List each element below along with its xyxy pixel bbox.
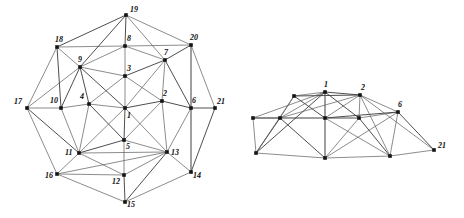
vertex-label-1: 1 — [324, 81, 328, 89]
graph-vertex — [396, 110, 400, 114]
vertex-label-21: 21 — [438, 142, 446, 150]
graph-vertex — [358, 93, 362, 97]
graph-vertex — [163, 58, 167, 62]
vertex-label-20: 20 — [190, 34, 198, 42]
graph-edge — [167, 108, 191, 152]
graph-vertex — [55, 172, 59, 176]
graph-edge — [80, 67, 125, 108]
graph-edge — [162, 101, 191, 108]
graph-edge — [325, 112, 398, 158]
graph-edge — [125, 60, 165, 76]
graph-vertex — [160, 99, 164, 103]
graph-vertex — [251, 116, 255, 120]
graph-vertex — [59, 106, 63, 110]
graph-vertex — [323, 116, 327, 120]
graph-edge — [325, 118, 359, 158]
graph-vertex — [25, 106, 29, 110]
graph-vertex — [123, 74, 127, 78]
graph-edge — [61, 104, 89, 108]
graph-edge — [27, 108, 57, 174]
graph-edge — [125, 172, 191, 202]
graph-vertex — [357, 116, 361, 120]
graph-vertex — [77, 151, 81, 155]
graph-edge — [79, 153, 124, 175]
graph-edge — [57, 15, 126, 47]
graph-edge — [253, 118, 256, 153]
graph-edge — [57, 174, 124, 175]
vertex-label-17: 17 — [14, 98, 22, 106]
graph-vertex — [278, 116, 282, 120]
graph-edge — [57, 47, 80, 67]
graph-vertex — [432, 148, 436, 152]
vertex-label-21: 21 — [217, 98, 225, 106]
graph-vertex — [388, 154, 392, 158]
vertex-label-1: 1 — [127, 112, 131, 120]
graph-edge — [124, 175, 125, 202]
graph-svg — [0, 0, 464, 218]
graph-edge — [325, 92, 360, 95]
graph-edge — [57, 46, 125, 47]
graph-edge — [89, 104, 124, 140]
graph-edge — [27, 108, 79, 153]
graph-edge — [280, 118, 325, 158]
vertex-label-5: 5 — [126, 143, 130, 151]
graph-edge — [124, 140, 167, 152]
graph-vertex — [78, 65, 82, 69]
graph-edge — [162, 101, 167, 152]
graph-edge — [80, 46, 125, 67]
vertex-label-9: 9 — [78, 56, 82, 64]
graph-vertex — [87, 102, 91, 106]
right-graph-edges — [253, 92, 434, 158]
vertex-label-12: 12 — [112, 178, 120, 186]
graph-vertex — [323, 90, 327, 94]
vertex-label-11: 11 — [65, 149, 73, 157]
graph-vertex — [123, 44, 127, 48]
graph-edge — [398, 112, 434, 150]
graph-vertex — [292, 94, 296, 98]
graph-edge — [125, 45, 191, 46]
vertex-label-7: 7 — [164, 49, 168, 57]
vertex-label-8: 8 — [127, 35, 131, 43]
graph-edge — [325, 118, 390, 156]
vertex-label-14: 14 — [193, 172, 201, 180]
graph-edge — [294, 95, 360, 96]
vertex-label-10: 10 — [50, 97, 58, 105]
graph-edge — [253, 92, 325, 118]
graph-edge — [79, 104, 89, 153]
graph-edge — [124, 108, 125, 140]
graph-vertex — [124, 13, 128, 17]
graph-vertex — [165, 150, 169, 154]
graph-edge — [325, 156, 390, 158]
graph-vertex — [254, 151, 258, 155]
graph-edge — [125, 76, 162, 101]
graph-edge — [360, 95, 434, 150]
vertex-label-3: 3 — [127, 65, 131, 73]
graph-edge — [80, 15, 126, 67]
vertex-label-16: 16 — [45, 172, 53, 180]
graph-edge — [390, 150, 434, 156]
vertex-label-4: 4 — [80, 93, 84, 101]
vertex-label-6: 6 — [398, 101, 402, 109]
graph-edge — [61, 108, 79, 153]
vertex-label-19: 19 — [130, 6, 138, 14]
graph-vertex — [323, 156, 327, 160]
graph-vertex — [122, 173, 126, 177]
vertex-label-18: 18 — [55, 36, 63, 44]
graph-edge — [126, 15, 191, 45]
graph-edge — [57, 152, 167, 174]
graph-edge — [89, 104, 125, 108]
graph-edge — [125, 60, 165, 108]
graph-edge — [325, 92, 359, 118]
graph-edge — [80, 67, 125, 76]
vertex-label-13: 13 — [171, 149, 179, 157]
graph-edge — [125, 108, 167, 152]
graph-edge — [125, 15, 126, 46]
graph-edge — [125, 152, 167, 202]
graph-vertex — [189, 106, 193, 110]
vertex-label-15: 15 — [127, 201, 135, 209]
graph-vertex — [189, 43, 193, 47]
right-graph-nodes — [251, 90, 436, 160]
graph-edge — [191, 108, 215, 172]
graph-edge — [165, 60, 191, 108]
graph-edge — [165, 45, 191, 60]
